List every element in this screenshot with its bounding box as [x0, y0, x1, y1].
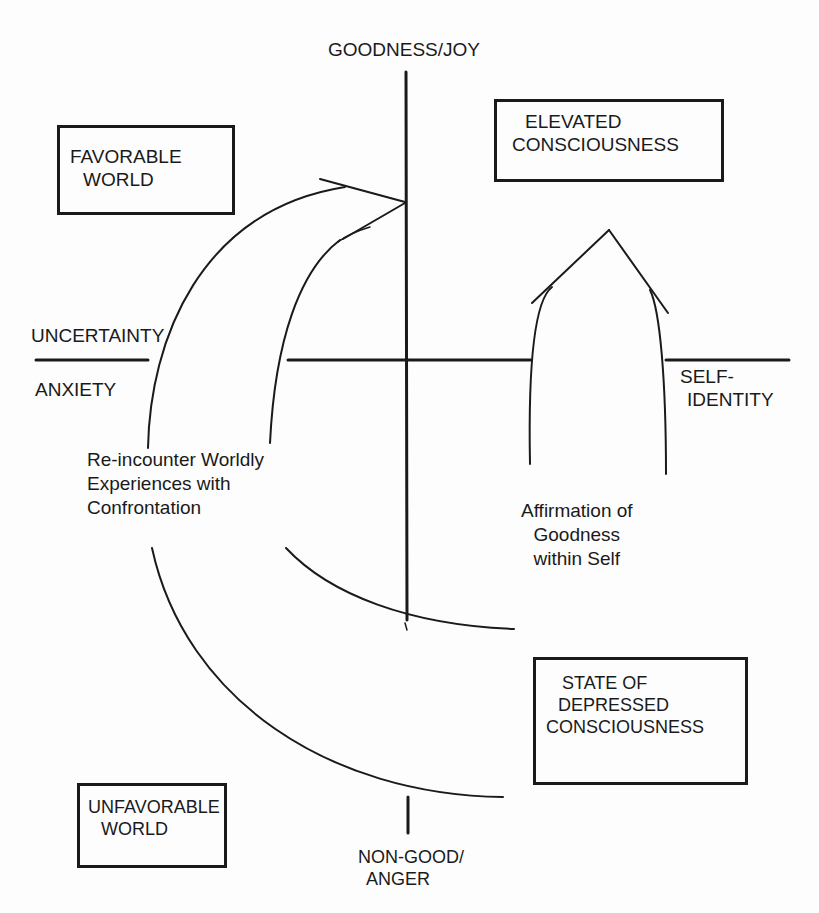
- affirmation-left-arc: [530, 287, 552, 464]
- axis-label-text: ANXIETY: [35, 379, 116, 400]
- annotation-line: Experiences with: [87, 472, 264, 496]
- box-label-line: WORLD: [88, 818, 220, 840]
- annotation-affirmation: Affirmation of Goodness within Self: [521, 499, 633, 571]
- box-label-line: DEPRESSED: [546, 694, 704, 716]
- annotation-line: Confrontation: [87, 496, 264, 520]
- box-label-line: ELEVATED: [512, 110, 679, 133]
- axis-label-anxiety: ANXIETY: [35, 378, 116, 401]
- axis-label-self-identity: SELF- IDENTITY: [680, 365, 774, 411]
- arrowhead-upper: [320, 179, 405, 202]
- box-unfavorable-world-label: UNFAVORABLE WORLD: [88, 796, 220, 840]
- box-label-line: CONSCIOUSNESS: [546, 716, 704, 738]
- box-favorable-world-label: FAVORABLE WORLD: [70, 145, 182, 191]
- annotation-line: Affirmation of: [521, 499, 633, 523]
- axis-label-line: NON-GOOD/: [358, 846, 464, 868]
- box-label-line: WORLD: [70, 168, 182, 191]
- diagram-canvas: GOODNESS/JOY UNCERTAINTY ANXIETY SELF- I…: [0, 0, 819, 913]
- axis-label-text: UNCERTAINTY: [31, 325, 164, 346]
- axis-label-line: IDENTITY: [680, 388, 774, 411]
- inner-arc-upper: [270, 240, 340, 443]
- box-label-line: CONSCIOUSNESS: [512, 133, 679, 156]
- vertical-axis: [406, 72, 407, 620]
- box-depressed-consciousness-label: STATE OF DEPRESSED CONSCIOUSNESS: [546, 672, 704, 738]
- outer-arc-lower: [152, 548, 503, 797]
- axis-label-text: GOODNESS/JOY: [328, 39, 480, 60]
- annotation-line: Goodness: [521, 523, 633, 547]
- box-label-line: STATE OF: [546, 672, 704, 694]
- axis-label-uncertainty: UNCERTAINTY: [31, 324, 164, 347]
- annotation-line: within Self: [521, 547, 633, 571]
- box-label-line: FAVORABLE: [70, 145, 182, 168]
- annotation-reencounter: Re-incounter Worldly Experiences with Co…: [87, 448, 264, 520]
- box-label-line: UNFAVORABLE: [88, 796, 220, 818]
- axis-label-goodness-joy: GOODNESS/JOY: [328, 38, 480, 61]
- axis-label-line: ANGER: [358, 868, 464, 890]
- axis-label-line: SELF-: [680, 365, 774, 388]
- annotation-line: Re-incounter Worldly: [87, 448, 264, 472]
- outer-arc-upper: [148, 187, 345, 448]
- affirmation-right-arc: [650, 290, 666, 474]
- axis-label-non-good-anger: NON-GOOD/ ANGER: [358, 846, 464, 890]
- inner-arc-lower: [286, 548, 514, 629]
- box-elevated-consciousness-label: ELEVATED CONSCIOUSNESS: [512, 110, 679, 156]
